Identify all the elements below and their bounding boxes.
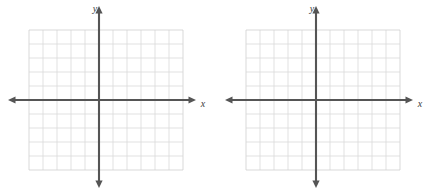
coordinate-plane-left[interactable]: x y xyxy=(0,0,217,194)
x-axis-label: x xyxy=(200,98,206,109)
y-axis-arrow-down xyxy=(312,181,319,189)
y-axis-label: y xyxy=(92,3,98,14)
axes-right xyxy=(225,6,413,188)
x-axis-arrow-right xyxy=(406,96,414,103)
x-axis-label: x xyxy=(417,98,423,109)
y-axis-label: y xyxy=(309,3,315,14)
coordinate-plane-left-svg: x y xyxy=(0,0,217,194)
worksheet-canvas: x y x y xyxy=(0,0,434,194)
x-axis-arrow-left xyxy=(225,96,233,103)
x-axis-arrow-left xyxy=(8,96,16,103)
coordinate-plane-right[interactable]: x y xyxy=(217,0,434,194)
y-axis-arrow-down xyxy=(95,181,102,189)
x-axis-arrow-right xyxy=(189,96,197,103)
coordinate-plane-right-svg: x y xyxy=(217,0,434,194)
axes-left xyxy=(8,6,196,188)
